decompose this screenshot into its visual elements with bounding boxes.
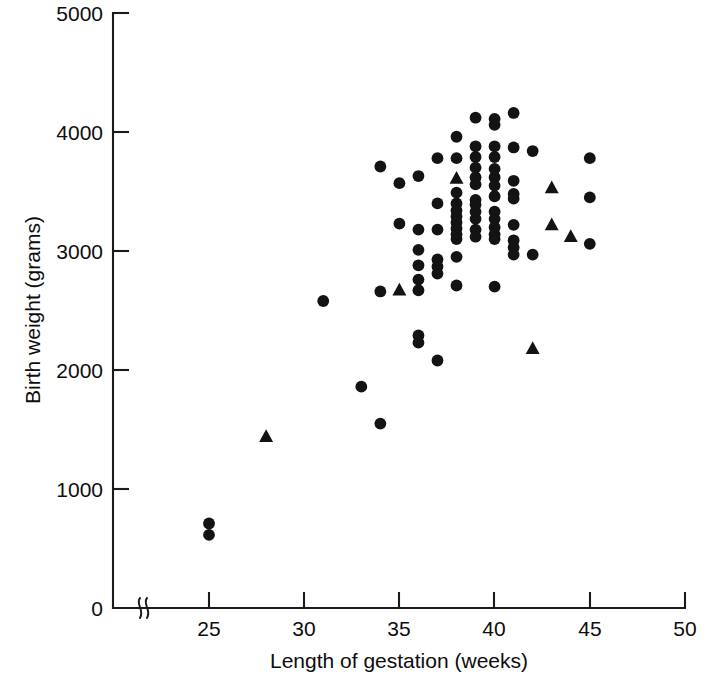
data-point-circle	[413, 170, 425, 182]
data-point-circle	[413, 224, 425, 236]
data-point-circle	[355, 381, 367, 393]
data-point-triangle	[526, 341, 540, 354]
data-point-circle	[508, 249, 520, 261]
data-point-circle	[489, 140, 501, 152]
data-point-circle	[470, 151, 482, 163]
data-point-circle	[432, 268, 444, 280]
data-point-circle	[470, 178, 482, 190]
data-point-circle	[527, 249, 539, 261]
data-point-circle	[489, 119, 501, 131]
data-point-triangle	[392, 283, 406, 296]
data-point-circle	[451, 280, 463, 292]
data-point-circle	[451, 152, 463, 164]
data-point-circle	[374, 161, 386, 173]
data-point-circle	[489, 180, 501, 192]
data-point-circle	[451, 187, 463, 199]
data-point-circle	[470, 140, 482, 152]
data-point-circle	[470, 231, 482, 243]
data-point-circle	[508, 175, 520, 187]
data-point-circle	[413, 284, 425, 296]
data-point-circle	[508, 219, 520, 231]
data-point-circle	[489, 190, 501, 202]
plot-canvas: 5000 4000 3000 2000 1000 0 25 30 35 40 4…	[0, 0, 710, 680]
x-tick-label-45: 45	[578, 617, 601, 640]
data-point-circle	[374, 286, 386, 298]
data-point-circle	[451, 233, 463, 245]
data-point-circle	[489, 151, 501, 163]
data-point-circle	[508, 107, 520, 119]
data-point-circle	[413, 274, 425, 286]
y-tick-label-2000: 2000	[56, 359, 103, 382]
y-tick-label-3000: 3000	[56, 240, 103, 263]
x-tick-label-40: 40	[482, 617, 505, 640]
x-axis-title: Length of gestation (weeks)	[270, 649, 528, 672]
data-point-circle	[317, 295, 329, 307]
data-point-circle	[413, 337, 425, 349]
x-tick-label-25: 25	[197, 617, 220, 640]
data-point-triangle	[450, 171, 464, 184]
data-point-triangle	[545, 181, 559, 194]
data-point-circle	[584, 152, 596, 164]
x-axis-tick-labels: 25 30 35 40 45 50	[197, 617, 696, 640]
x-tick-label-35: 35	[387, 617, 410, 640]
y-tick-label-5000: 5000	[56, 2, 103, 25]
data-point-circle	[451, 251, 463, 263]
data-point-circle	[508, 142, 520, 154]
data-point-circle	[508, 193, 520, 205]
data-point-circle	[489, 281, 501, 293]
data-point-layer	[203, 107, 596, 541]
data-point-circle	[432, 152, 444, 164]
data-point-triangle	[564, 229, 578, 242]
data-point-circle	[203, 529, 215, 541]
scatter-plot-figure: 5000 4000 3000 2000 1000 0 25 30 35 40 4…	[0, 0, 710, 680]
y-tick-label-4000: 4000	[56, 121, 103, 144]
data-point-circle	[203, 518, 215, 530]
data-point-triangle	[545, 217, 559, 230]
data-point-circle	[394, 177, 406, 189]
data-point-circle	[413, 244, 425, 256]
data-point-circle	[432, 224, 444, 236]
x-tick-label-30: 30	[292, 617, 315, 640]
data-point-circle	[413, 259, 425, 271]
data-point-circle	[394, 218, 406, 230]
data-point-triangle	[259, 429, 273, 442]
y-axis-ticks	[113, 13, 129, 489]
y-axis-title: Birth weight (grams)	[21, 216, 44, 404]
data-point-circle	[527, 145, 539, 157]
x-tick-label-50: 50	[673, 617, 696, 640]
data-point-circle	[584, 238, 596, 250]
data-point-circle	[451, 131, 463, 143]
data-point-circle	[489, 233, 501, 245]
data-point-circle	[432, 355, 444, 367]
data-point-circle	[584, 192, 596, 204]
y-tick-label-1000: 1000	[56, 478, 103, 501]
data-point-circle	[374, 418, 386, 430]
data-point-circle	[470, 112, 482, 124]
x-axis-ticks	[209, 592, 685, 608]
y-axis-tick-labels: 5000 4000 3000 2000 1000 0	[56, 2, 103, 620]
y-tick-label-0: 0	[91, 597, 103, 620]
data-point-circle	[432, 198, 444, 210]
data-point-circle	[470, 213, 482, 225]
